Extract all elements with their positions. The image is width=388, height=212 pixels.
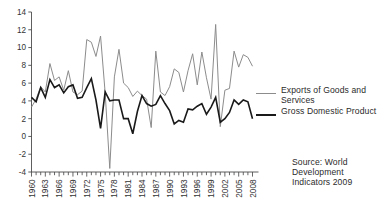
svg-text:1966: 1966 — [55, 179, 64, 198]
source-line-3: Indicators 2009 — [292, 178, 388, 188]
svg-text:14: 14 — [17, 8, 27, 17]
svg-text:1969: 1969 — [69, 179, 78, 198]
svg-text:1975: 1975 — [97, 179, 106, 198]
svg-text:1981: 1981 — [124, 179, 133, 198]
svg-text:2008: 2008 — [249, 179, 258, 198]
svg-text:1996: 1996 — [193, 179, 202, 198]
svg-text:4: 4 — [21, 97, 26, 106]
svg-text:2: 2 — [21, 115, 26, 124]
svg-text:1984: 1984 — [138, 179, 147, 198]
svg-text:1963: 1963 — [41, 179, 50, 198]
chart-legend: Exports of Goods andServices Gross Domes… — [256, 86, 388, 121]
svg-text:1978: 1978 — [110, 179, 119, 198]
chart-figure: -4-2024681012141960196319661969197219751… — [0, 0, 388, 212]
svg-text:12: 12 — [17, 26, 27, 35]
svg-text:1993: 1993 — [180, 179, 189, 198]
legend-line-gdp-icon — [256, 110, 276, 119]
svg-text:1972: 1972 — [83, 179, 92, 198]
svg-text:6: 6 — [21, 79, 26, 88]
svg-text:8: 8 — [21, 61, 26, 70]
legend-item-exports: Exports of Goods andServices — [256, 86, 388, 105]
source-note: Source: World Development Indicators 200… — [292, 158, 388, 187]
svg-text:1999: 1999 — [207, 179, 216, 198]
legend-label-gdp: Gross Domestic Product — [281, 107, 376, 117]
svg-text:2002: 2002 — [221, 179, 230, 198]
legend-label-exports-line1: Exports of Goods and — [281, 85, 366, 95]
svg-text:0: 0 — [21, 132, 26, 141]
svg-text:1960: 1960 — [28, 179, 37, 198]
svg-text:-2: -2 — [19, 150, 27, 159]
svg-text:-4: -4 — [19, 168, 27, 177]
svg-text:2005: 2005 — [235, 179, 244, 198]
svg-text:1987: 1987 — [152, 179, 161, 198]
svg-text:10: 10 — [17, 43, 27, 52]
legend-line-exports-icon — [256, 89, 276, 98]
legend-label-exports-line2: Services — [281, 95, 315, 105]
legend-item-gdp: Gross Domestic Product — [256, 107, 388, 119]
legend-label-exports: Exports of Goods andServices — [281, 86, 366, 105]
svg-text:1990: 1990 — [166, 179, 175, 198]
